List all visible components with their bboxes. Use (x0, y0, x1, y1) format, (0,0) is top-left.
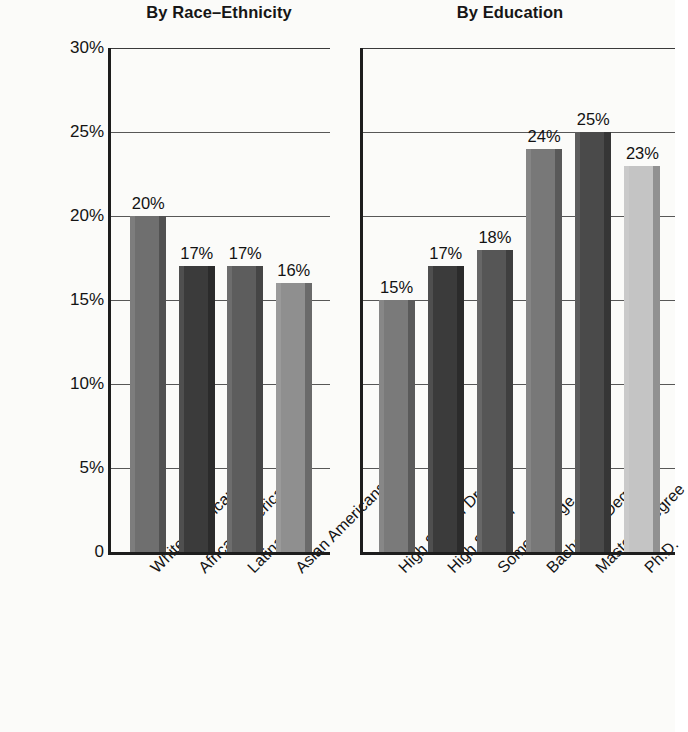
bar-highlight (379, 300, 384, 552)
bar-value-label: 24% (528, 127, 561, 146)
bar-slot: 20% (130, 48, 166, 552)
bar-slot: 16% (276, 48, 312, 552)
bar-shadow (555, 149, 562, 552)
bar-highlight (179, 266, 184, 552)
bar-shadow (159, 216, 166, 552)
bar-shadow (408, 300, 415, 552)
bar-highlight (477, 250, 482, 552)
bar-shadow (457, 266, 464, 552)
y-tick-label: 5% (4, 458, 104, 478)
panel-title-education: By Education (360, 3, 660, 22)
bar-slot: 15% (379, 48, 415, 552)
bar-highlight (575, 132, 580, 552)
bar-shadow (604, 132, 611, 552)
x-axis-line-right (360, 552, 675, 555)
bar[interactable]: 16% (276, 283, 312, 552)
y-tick-label: 10% (4, 374, 104, 394)
y-axis: 30%25%20%15%10%5%0 (0, 0, 104, 732)
bar-slot: 25% (575, 48, 611, 552)
bar[interactable]: 23% (624, 166, 660, 552)
bar-slot: 17% (179, 48, 215, 552)
chart-panel-race-ethnicity: 20%17%17%16% (108, 48, 330, 552)
bar-value-label: 16% (277, 261, 310, 280)
bar-shadow (208, 266, 215, 552)
bar-value-label: 15% (380, 278, 413, 297)
bar[interactable]: 17% (227, 266, 263, 552)
bar-slot: 24% (526, 48, 562, 552)
bar-highlight (130, 216, 135, 552)
bar-slot: 17% (428, 48, 464, 552)
bar-value-label: 17% (229, 244, 262, 263)
panel-title-race-ethnicity: By Race–Ethnicity (108, 3, 330, 22)
bar-value-label: 23% (626, 144, 659, 163)
bar-value-label: 25% (577, 110, 610, 129)
bar-highlight (526, 149, 531, 552)
bar-slot: 17% (227, 48, 263, 552)
y-tick-label: 15% (4, 290, 104, 310)
bar-highlight (276, 283, 281, 552)
bar-shadow (653, 166, 660, 552)
y-tick-label: 20% (4, 206, 104, 226)
bar-slot: 23% (624, 48, 660, 552)
bar-slot: 18% (477, 48, 513, 552)
bar-value-label: 18% (478, 228, 511, 247)
bar-highlight (227, 266, 232, 552)
y-axis-line-right (360, 48, 363, 552)
y-tick-label: 25% (4, 122, 104, 142)
bar-value-label: 17% (180, 244, 213, 263)
bar-highlight (624, 166, 629, 552)
bar-highlight (428, 266, 433, 552)
bar[interactable]: 15% (379, 300, 415, 552)
bar-value-label: 20% (132, 194, 165, 213)
x-axis-line-left (108, 552, 330, 555)
y-tick-label: 30% (4, 38, 104, 58)
bar[interactable]: 17% (179, 266, 215, 552)
bar-value-label: 17% (429, 244, 462, 263)
bar-shadow (506, 250, 513, 552)
bar[interactable]: 24% (526, 149, 562, 552)
bar-shadow (256, 266, 263, 552)
chart-panel-education: 15%17%18%24%25%23% (360, 48, 675, 552)
bar[interactable]: 20% (130, 216, 166, 552)
bar-group-race-ethnicity: 20%17%17%16% (110, 48, 330, 552)
bar[interactable]: 18% (477, 250, 513, 552)
bar-group-education: 15%17%18%24%25%23% (362, 48, 675, 552)
bar-shadow (305, 283, 312, 552)
y-tick-label: 0 (4, 542, 104, 562)
bar[interactable]: 25% (575, 132, 611, 552)
y-axis-line-left (108, 48, 111, 552)
bar[interactable]: 17% (428, 266, 464, 552)
